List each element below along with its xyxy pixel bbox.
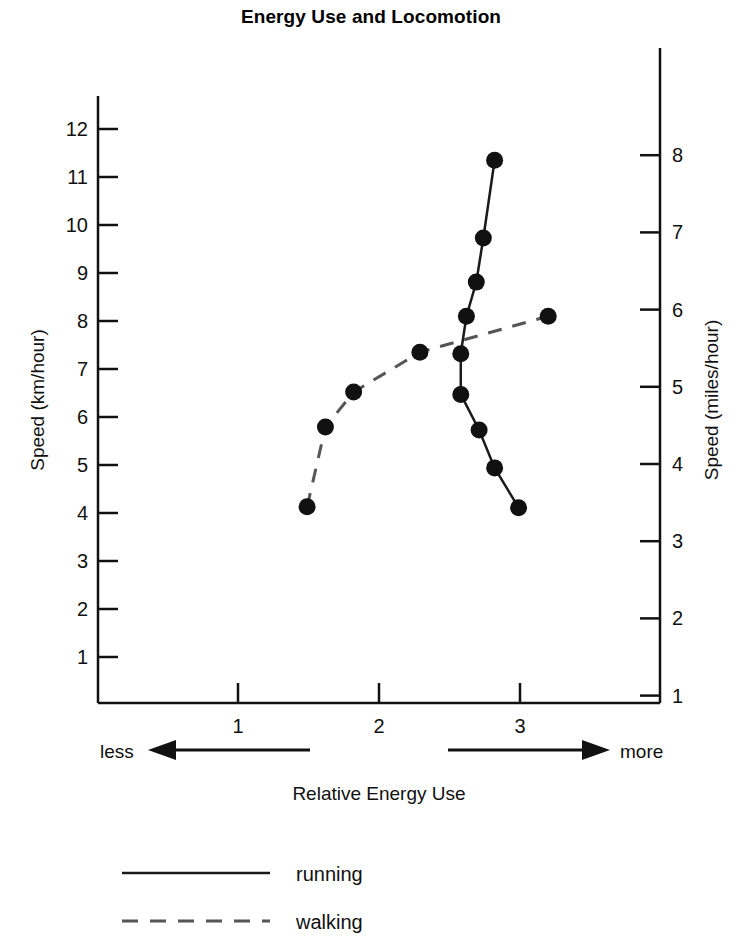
data-point-walking[interactable]	[317, 419, 334, 436]
y-axis-left-ticks: 123456789101112	[66, 118, 118, 668]
y-tick-label-right: 4	[672, 453, 683, 475]
y-tick-label-left: 2	[77, 598, 88, 620]
chart-figure: Energy Use and Locomotion 12345678910111…	[0, 0, 742, 952]
more-label: more	[620, 741, 663, 762]
data-point-running[interactable]	[468, 274, 485, 291]
y-tick-label-left: 6	[77, 406, 88, 428]
legend-label-walking: walking	[295, 911, 363, 933]
data-point-running[interactable]	[452, 386, 469, 403]
x-axis-label: Relative Energy Use	[292, 783, 465, 804]
x-axis-ticks: 123	[232, 683, 525, 737]
x-tick-label: 3	[514, 715, 525, 737]
energy-direction-annotation: less more	[100, 740, 663, 762]
data-point-walking[interactable]	[411, 344, 428, 361]
y-tick-label-left: 9	[77, 262, 88, 284]
data-point-running[interactable]	[458, 308, 475, 325]
x-tick-label: 1	[232, 715, 243, 737]
y-tick-label-left: 4	[77, 502, 88, 524]
y-tick-label-left: 5	[77, 454, 88, 476]
y-tick-label-right: 7	[672, 221, 683, 243]
data-point-walking[interactable]	[299, 498, 316, 515]
left-arrow-icon	[148, 740, 176, 760]
legend-label-running: running	[296, 863, 363, 885]
legend-item-walking[interactable]: walking	[122, 911, 363, 933]
y-tick-label-right: 2	[672, 607, 683, 629]
data-point-running[interactable]	[475, 229, 492, 246]
legend-item-running[interactable]: running	[122, 863, 363, 885]
y-tick-label-left: 8	[77, 310, 88, 332]
y-tick-label-right: 6	[672, 299, 683, 321]
data-point-walking[interactable]	[540, 308, 557, 325]
data-point-running[interactable]	[471, 421, 488, 438]
data-point-running[interactable]	[486, 152, 503, 169]
y-tick-label-left: 12	[66, 118, 88, 140]
y-axis-right-ticks: 12345678	[640, 144, 683, 706]
y-tick-label-right: 3	[672, 530, 683, 552]
y-tick-label-right: 5	[672, 376, 683, 398]
y-tick-label-left: 3	[77, 550, 88, 572]
series-line-walking	[307, 316, 548, 507]
x-tick-label: 2	[373, 715, 384, 737]
y-tick-label-left: 7	[77, 358, 88, 380]
y-tick-label-right: 1	[672, 685, 683, 707]
series-walking	[299, 308, 557, 516]
right-arrow-icon	[582, 740, 610, 760]
data-point-running[interactable]	[486, 459, 503, 476]
data-point-running[interactable]	[452, 345, 469, 362]
data-point-running[interactable]	[510, 499, 527, 516]
y-tick-label-right: 8	[672, 144, 683, 166]
y-tick-label-left: 1	[77, 646, 88, 668]
y-tick-label-left: 10	[66, 214, 88, 236]
data-series-layer	[299, 152, 557, 517]
less-label: less	[100, 741, 134, 762]
legend: running walking	[122, 863, 363, 933]
data-point-walking[interactable]	[345, 384, 362, 401]
y-axis-right-label: Speed (miles/hour)	[701, 320, 722, 481]
chart-canvas: 123456789101112 12345678 123 Speed (km/h…	[0, 0, 742, 952]
y-tick-label-left: 11	[67, 166, 88, 188]
y-axis-left-label: Speed (km/hour)	[27, 329, 48, 471]
